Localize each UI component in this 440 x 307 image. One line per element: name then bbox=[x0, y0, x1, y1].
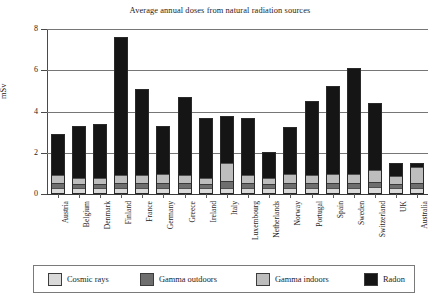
x-axis-label-finland: Finland bbox=[124, 201, 133, 224]
x-axis-line bbox=[47, 194, 428, 195]
y-tick-label-0: 0 bbox=[18, 189, 38, 198]
bar-segment-gamma-indoors bbox=[305, 175, 319, 182]
bar-uk bbox=[389, 163, 403, 194]
x-tick-greece bbox=[185, 194, 186, 198]
x-axis-label-germany: Germany bbox=[166, 201, 175, 229]
bar-segment-radon bbox=[326, 86, 340, 175]
bar-segment-gamma-indoors bbox=[241, 175, 255, 182]
x-tick-france bbox=[142, 194, 143, 198]
bar-segment-radon bbox=[72, 126, 86, 178]
x-axis-label-switzerland: Switzerland bbox=[378, 201, 387, 237]
x-axis-label-italy: Italy bbox=[230, 201, 239, 215]
x-tick-luxembourg bbox=[248, 194, 249, 198]
x-tick-ireland bbox=[206, 194, 207, 198]
bar-segment-radon bbox=[368, 103, 382, 170]
x-tick-germany bbox=[163, 194, 164, 198]
x-axis-label-austria: Austria bbox=[61, 201, 70, 223]
bar-segment-radon bbox=[262, 152, 276, 178]
bar-segment-radon bbox=[51, 134, 65, 175]
y-tick-label-2: 2 bbox=[18, 148, 38, 157]
bar-segment-radon bbox=[114, 37, 128, 175]
y-tick-label-4: 4 bbox=[18, 107, 38, 116]
bar-belgium bbox=[72, 126, 86, 194]
bar-segment-radon bbox=[199, 118, 213, 178]
bar-finland bbox=[114, 37, 128, 194]
bar-australia bbox=[410, 163, 424, 194]
legend-item-cosmic-rays[interactable]: Cosmic rays bbox=[48, 273, 109, 286]
x-tick-australia bbox=[417, 194, 418, 198]
bar-segment-gamma-indoors bbox=[178, 175, 192, 182]
bar-segment-gamma-indoors bbox=[283, 174, 297, 182]
chart-title: Average annual doses from natural radiat… bbox=[0, 6, 440, 15]
bar-denmark bbox=[93, 124, 107, 194]
bar-segment-gamma-indoors bbox=[410, 167, 424, 182]
bar-sweden bbox=[347, 68, 361, 194]
y-tick-label-6: 6 bbox=[18, 65, 38, 74]
legend-label-cosmic-rays: Cosmic rays bbox=[67, 275, 109, 284]
bar-germany bbox=[156, 126, 170, 194]
bar-segment-gamma-indoors bbox=[156, 174, 170, 182]
x-tick-netherlands bbox=[269, 194, 270, 198]
bar-segment-radon bbox=[347, 68, 361, 174]
bar-segment-gamma-indoors bbox=[326, 174, 340, 182]
x-axis-label-ireland: Ireland bbox=[209, 201, 218, 223]
legend-item-gamma-indoors[interactable]: Gamma indoors bbox=[256, 273, 329, 286]
x-axis-label-australia: Australia bbox=[420, 201, 429, 229]
bar-segment-gamma-indoors bbox=[51, 175, 65, 182]
x-tick-denmark bbox=[100, 194, 101, 198]
x-axis-label-luxembourg: Luxembourg bbox=[251, 201, 260, 240]
chart-legend: Cosmic raysGamma outdoorsGamma indoorsRa… bbox=[33, 265, 415, 293]
bar-segment-gamma-indoors bbox=[389, 176, 403, 183]
bar-netherlands bbox=[262, 152, 276, 194]
x-axis-label-portugal: Portugal bbox=[315, 201, 324, 227]
y-tick-label-8: 8 bbox=[18, 24, 38, 33]
legend-item-gamma-outdoors[interactable]: Gamma outdoors bbox=[140, 273, 217, 286]
bar-segment-radon bbox=[241, 118, 255, 176]
x-axis-label-greece: Greece bbox=[188, 201, 197, 223]
legend-label-gamma-outdoors: Gamma outdoors bbox=[159, 275, 217, 284]
bar-segment-radon bbox=[305, 101, 319, 175]
x-tick-austria bbox=[58, 194, 59, 198]
legend-label-gamma-indoors: Gamma indoors bbox=[275, 275, 329, 284]
bar-greece bbox=[178, 97, 192, 194]
x-tick-finland bbox=[121, 194, 122, 198]
chart-container: Average annual doses from natural radiat… bbox=[0, 0, 440, 307]
bar-france bbox=[135, 89, 149, 194]
bar-spain bbox=[326, 86, 340, 194]
x-axis-label-spain: Spain bbox=[336, 201, 345, 218]
bar-segment-cosmic-rays bbox=[368, 187, 382, 194]
bar-segment-gamma-indoors bbox=[368, 170, 382, 181]
legend-swatch-gamma-outdoors bbox=[140, 273, 154, 286]
x-axis-label-uk: UK bbox=[399, 201, 408, 212]
bar-segment-radon bbox=[283, 127, 297, 174]
bar-segment-gamma-indoors bbox=[135, 175, 149, 182]
x-tick-portugal bbox=[312, 194, 313, 198]
x-axis-label-sweden: Sweden bbox=[357, 201, 366, 225]
bars-group bbox=[47, 29, 428, 194]
bar-segment-radon bbox=[389, 163, 403, 176]
x-tick-belgium bbox=[79, 194, 80, 198]
bar-luxembourg bbox=[241, 118, 255, 194]
legend-swatch-radon bbox=[364, 273, 378, 286]
bar-segment-gamma-indoors bbox=[114, 175, 128, 182]
legend-item-radon[interactable]: Radon bbox=[364, 273, 405, 286]
y-axis-title: mSv bbox=[0, 84, 8, 99]
x-axis-label-france: France bbox=[145, 201, 154, 222]
bar-segment-gamma-indoors bbox=[347, 174, 361, 182]
bar-norway bbox=[283, 127, 297, 194]
bar-italy bbox=[220, 116, 234, 194]
bar-portugal bbox=[305, 101, 319, 194]
x-axis-label-netherlands: Netherlands bbox=[272, 201, 281, 238]
legend-label-radon: Radon bbox=[383, 275, 405, 284]
x-tick-spain bbox=[333, 194, 334, 198]
bar-segment-radon bbox=[220, 116, 234, 163]
bar-segment-radon bbox=[135, 89, 149, 176]
bar-austria bbox=[51, 134, 65, 194]
bar-segment-radon bbox=[156, 126, 170, 174]
x-tick-uk bbox=[396, 194, 397, 198]
x-axis-label-denmark: Denmark bbox=[103, 201, 112, 229]
x-axis-label-belgium: Belgium bbox=[82, 201, 91, 227]
x-tick-norway bbox=[290, 194, 291, 198]
legend-swatch-cosmic-rays bbox=[48, 273, 62, 286]
x-tick-sweden bbox=[354, 194, 355, 198]
